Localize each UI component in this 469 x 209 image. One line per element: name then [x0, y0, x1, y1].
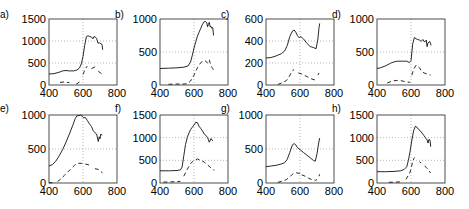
x-tick-label: 800: [108, 185, 126, 197]
series-solid-line: [160, 122, 213, 171]
panel-label: d): [332, 9, 341, 20]
series-dashed-line: [49, 163, 103, 183]
x-tick-label: 600: [74, 87, 92, 99]
series-dashed-line: [278, 70, 319, 85]
panel-e: 05001000400600800e): [0, 103, 126, 197]
panel-f: 050010001500400600800f): [115, 103, 237, 197]
series-solid-line: [49, 36, 103, 74]
y-tick-label: 400: [245, 35, 263, 47]
panel-label: a): [0, 9, 9, 20]
grid-lines: [49, 19, 117, 85]
x-tick-label: 400: [151, 87, 169, 99]
panel-label: f): [115, 103, 121, 114]
series-solid-line: [266, 138, 320, 167]
series-dashed-line: [169, 60, 215, 84]
panel-label: b): [115, 9, 124, 20]
x-tick-label: 600: [185, 185, 203, 197]
x-tick-label: 600: [291, 185, 309, 197]
panel-d: 05001000400600800d): [332, 9, 454, 99]
series-dashed-line: [278, 173, 320, 183]
y-tick-label: 1000: [350, 13, 374, 25]
grid-lines: [266, 19, 334, 85]
figure-canvas: 050010001500400600800a)05001000400600800…: [0, 0, 469, 209]
y-tick-label: 200: [245, 57, 263, 69]
x-tick-label: 400: [40, 87, 58, 99]
y-tick-label: 1000: [22, 35, 46, 47]
y-tick-label: 1500: [133, 109, 157, 121]
y-tick-label: 1000: [22, 109, 46, 121]
x-tick-label: 800: [108, 87, 126, 99]
x-tick-label: 800: [436, 87, 454, 99]
x-tick-label: 400: [368, 185, 386, 197]
x-tick-label: 400: [151, 185, 169, 197]
panel-g: 05001000400600800g): [221, 103, 343, 197]
y-tick-label: 600: [245, 13, 263, 25]
grid-lines: [377, 19, 445, 85]
x-tick-label: 800: [325, 87, 343, 99]
series-dashed-line: [387, 65, 430, 83]
panel-c: 0200400600400600800c): [221, 9, 343, 99]
panel-label: h): [332, 103, 341, 114]
series-solid-line: [49, 115, 102, 166]
x-tick-label: 800: [219, 87, 237, 99]
series-dashed-line: [60, 66, 103, 84]
y-tick-label: 1000: [350, 132, 374, 144]
x-tick-label: 800: [219, 185, 237, 197]
y-tick-label: 500: [139, 46, 157, 58]
x-tick-label: 400: [257, 87, 275, 99]
grid-lines: [49, 115, 117, 183]
y-tick-label: 500: [245, 143, 263, 155]
panel-label: e): [0, 103, 9, 114]
x-tick-label: 800: [436, 185, 454, 197]
x-tick-label: 600: [185, 87, 203, 99]
grid-lines: [266, 115, 334, 183]
y-tick-label: 500: [28, 143, 46, 155]
y-tick-label: 1000: [133, 132, 157, 144]
x-tick-label: 400: [368, 87, 386, 99]
series-dashed-line: [389, 158, 431, 183]
x-tick-label: 600: [74, 185, 92, 197]
x-tick-label: 400: [257, 185, 275, 197]
y-tick-label: 1000: [239, 109, 263, 121]
x-tick-label: 600: [402, 87, 420, 99]
y-tick-label: 500: [28, 57, 46, 69]
y-tick-label: 1000: [133, 13, 157, 25]
y-tick-label: 1500: [22, 13, 46, 25]
y-tick-label: 500: [356, 46, 374, 58]
y-tick-label: 500: [356, 154, 374, 166]
x-tick-label: 600: [402, 185, 420, 197]
x-tick-label: 400: [40, 185, 58, 197]
series-solid-line: [377, 38, 431, 69]
panel-h: 050010001500400600800h): [332, 103, 454, 197]
multi-panel-spectra-figure: 050010001500400600800a)05001000400600800…: [0, 0, 469, 209]
panel-label: g): [221, 103, 230, 114]
panel-label: c): [221, 9, 229, 20]
x-tick-label: 600: [291, 87, 309, 99]
panel-b: 05001000400600800b): [115, 9, 237, 99]
y-tick-label: 1500: [350, 109, 374, 121]
y-tick-label: 500: [139, 154, 157, 166]
series-solid-line: [377, 126, 431, 171]
x-tick-label: 800: [325, 185, 343, 197]
grid-lines: [377, 115, 445, 183]
panel-a: 050010001500400600800a): [0, 9, 126, 99]
